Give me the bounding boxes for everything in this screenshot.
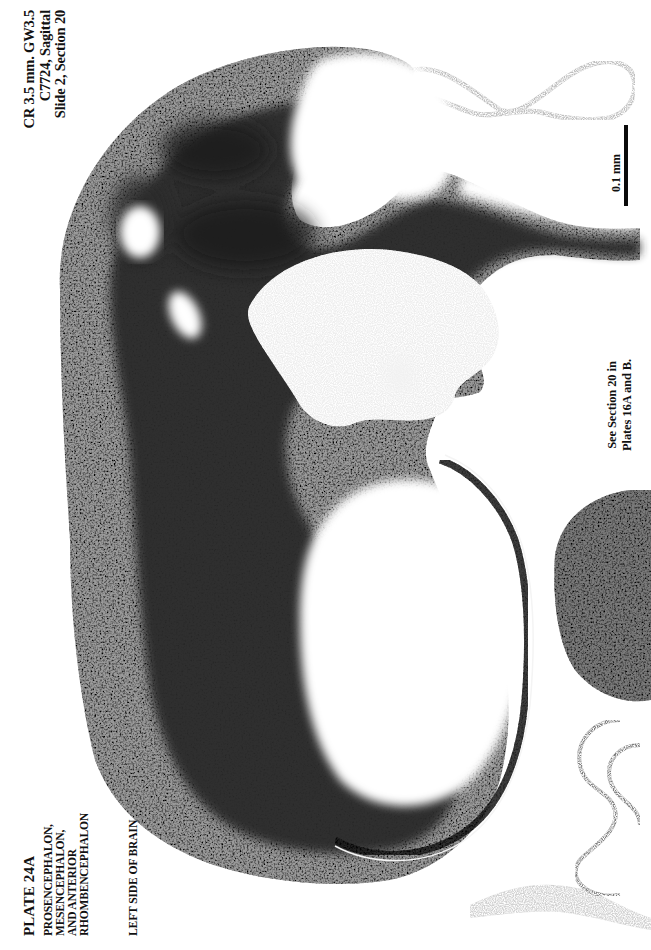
specimen-crown-rump-length: CR 3.5 mm. GW3.5 <box>22 10 38 172</box>
brain-side-label: LEFT SIDE OF BRAIN <box>127 820 140 936</box>
cross-reference-line: Plates 16A and B. <box>620 340 635 470</box>
folded-epithelium <box>576 720 640 896</box>
plate-subtitle-line: PROSENCEPHALON, <box>42 746 54 936</box>
atlas-page: 30 <box>0 0 651 950</box>
brain-section-micrograph <box>0 0 651 950</box>
scattered-cells-bottom <box>470 885 651 930</box>
plate-title: PLATE 24A <box>20 746 38 936</box>
specimen-slide-section: Slide 2, Section 20 <box>53 10 69 172</box>
plate-subtitle-line: RHOMBENCEPHALON <box>78 746 90 936</box>
cross-reference-note: See Section 20 in Plates 16A and B. <box>605 340 635 470</box>
scale-bar-label: 0.1 mm <box>610 154 623 192</box>
ventricle-small-spot <box>386 357 414 393</box>
plate-subtitle-line: MESENCEPHALON, <box>54 746 66 936</box>
specimen-catalog-plane: C7724, Sagittal <box>38 10 54 172</box>
scale-bar <box>624 125 628 206</box>
cross-reference-line: See Section 20 in <box>605 340 620 470</box>
adjacent-tissue-mass <box>554 490 651 701</box>
plate-caption: PLATE 24A PROSENCEPHALON, MESENCEPHALON,… <box>20 746 90 936</box>
specimen-info: CR 3.5 mm. GW3.5 C7724, Sagittal Slide 2… <box>22 10 69 172</box>
ventricle-small-oval-1 <box>120 206 160 258</box>
plate-subtitle-line: AND ANTERIOR <box>66 746 78 936</box>
plate-subtitle: PROSENCEPHALON, MESENCEPHALON, AND ANTER… <box>42 746 90 936</box>
